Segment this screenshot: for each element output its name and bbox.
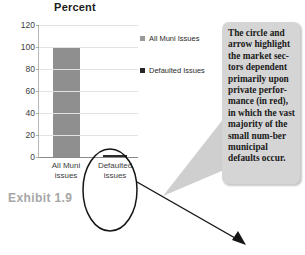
x-axis-label-line2: issues (104, 171, 127, 180)
x-axis-label-line2: issues (55, 171, 78, 180)
y-axis-tick-label: 0 (1, 153, 35, 162)
bar-chart: Percent All Muni issues Defaulted issues… (0, 0, 215, 200)
y-axis-tick-mark (36, 25, 39, 26)
y-axis-tick-mark (36, 91, 39, 92)
y-axis-tick-mark (36, 113, 39, 114)
bar-all-muni-issues (53, 47, 80, 157)
gridline (39, 135, 138, 136)
y-axis-tick-label: 40 (1, 109, 35, 118)
gridline (39, 91, 138, 92)
plot-area: All Muni issues Defaulted issues 1201008… (38, 25, 138, 158)
y-axis-tick-label: 120 (1, 21, 35, 30)
legend-label: All Muni Issues (149, 35, 199, 43)
legend-swatch-icon (140, 36, 145, 41)
x-axis-label-all-muni: All Muni issues (38, 161, 94, 180)
y-axis-tick-mark (36, 135, 39, 136)
x-axis-label-defaulted: Defaulted issues (87, 161, 143, 180)
y-axis-tick-mark (36, 47, 39, 48)
legend-item-all-muni-issues: All Muni Issues (140, 35, 218, 43)
gridline (39, 69, 138, 70)
y-axis-tick-mark (36, 157, 39, 158)
y-axis-tick-label: 80 (1, 65, 35, 74)
y-axis-tick-mark (36, 69, 39, 70)
chart-legend: All Muni Issues Defaulted Issues (140, 35, 218, 98)
bar-defaulted-issues (103, 155, 127, 157)
gridline (39, 113, 138, 114)
y-axis-tick-label: 20 (1, 131, 35, 140)
y-axis-tick-label: 60 (1, 87, 35, 96)
x-axis-label-line1: Defaulted (98, 161, 132, 170)
chart-title: Percent (0, 1, 150, 13)
callout-text: The circle and arrow highlight the marke… (228, 28, 295, 165)
y-axis-tick-label: 100 (1, 43, 35, 52)
legend-item-defaulted-issues: Defaulted Issues (140, 67, 218, 75)
callout-box: The circle and arrow highlight the marke… (222, 22, 300, 184)
gridline (39, 25, 138, 26)
legend-label: Defaulted Issues (149, 67, 205, 75)
x-axis-label-line1: All Muni (52, 161, 80, 170)
pointer-arrow-head (232, 231, 246, 245)
legend-swatch-icon (140, 68, 145, 73)
gridline (39, 47, 138, 48)
exhibit-label: Exhibit 1.9 (8, 191, 72, 205)
